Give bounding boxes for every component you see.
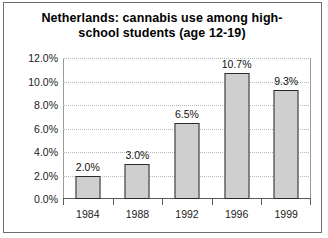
y-axis-tick-label: 10.0%: [4, 76, 58, 88]
x-axis-ticks: [63, 199, 311, 205]
bars-layer: 2.0%3.0%6.5%10.7%9.3%: [63, 58, 311, 199]
y-axis-labels: 0.0%2.0%4.0%6.0%8.0%10.0%12.0%: [4, 58, 58, 199]
x-axis-tick: [162, 199, 163, 205]
chart-frame: Netherlands: cannabis use among high- sc…: [3, 2, 322, 233]
x-axis-tick-label: 1996: [225, 208, 248, 220]
x-axis-tick: [212, 199, 213, 205]
y-axis-tick-label: 8.0%: [4, 99, 58, 111]
bar-group: 2.0%: [63, 58, 113, 199]
y-axis-tick-label: 4.0%: [4, 146, 58, 158]
y-axis-tick-label: 12.0%: [4, 52, 58, 64]
x-axis-tick: [113, 199, 114, 205]
y-axis-tick-label: 6.0%: [4, 123, 58, 135]
x-axis-tick-label: 1992: [175, 208, 198, 220]
bar-value-label: 10.7%: [222, 58, 252, 70]
bar[interactable]: [174, 123, 199, 199]
x-axis-tick-label: 1984: [76, 208, 99, 220]
bar-value-label: 3.0%: [125, 149, 149, 161]
bar-value-label: 9.3%: [274, 75, 298, 87]
bar[interactable]: [274, 90, 299, 199]
chart-title: Netherlands: cannabis use among high- sc…: [18, 11, 306, 41]
chart-title-line-2: school students (age 12-19): [78, 26, 245, 40]
x-axis-labels: 19841988199219961999: [63, 208, 311, 226]
bar-group: 6.5%: [162, 58, 212, 199]
bar-group: 9.3%: [261, 58, 311, 199]
bar[interactable]: [75, 176, 100, 200]
y-axis-tick-label: 2.0%: [4, 170, 58, 182]
x-axis-tick: [63, 199, 64, 205]
x-axis-tick: [310, 199, 311, 205]
bar[interactable]: [125, 164, 150, 199]
bar[interactable]: [224, 73, 249, 199]
x-axis-tick: [261, 199, 262, 205]
x-axis-tick-label: 1999: [275, 208, 298, 220]
bar-value-label: 6.5%: [175, 108, 199, 120]
bar-value-label: 2.0%: [76, 161, 100, 173]
y-axis-tick-label: 0.0%: [4, 193, 58, 205]
bar-group: 10.7%: [212, 58, 262, 199]
x-axis-tick-label: 1988: [126, 208, 149, 220]
chart-title-line-1: Netherlands: cannabis use among high-: [41, 11, 282, 25]
bar-group: 3.0%: [113, 58, 163, 199]
